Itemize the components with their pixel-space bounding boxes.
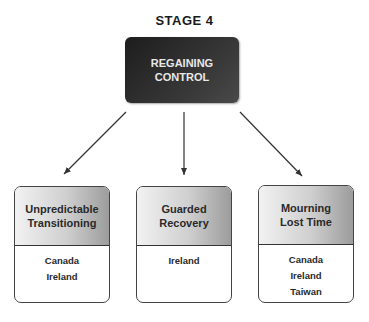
arrow-to-mourning-lost-time — [240, 112, 302, 176]
branch-card-unpredictable-transitioning: Unpredictable Transitioning Canada Irela… — [14, 186, 110, 303]
branch-country-list: Canada Ireland Taiwan — [259, 245, 353, 300]
branch-title-line: Mourning — [281, 201, 331, 215]
country-item: Ireland — [168, 253, 199, 269]
branch-card-guarded-recovery: Guarded Recovery Ireland — [136, 186, 232, 303]
branch-card-mourning-lost-time: Mourning Lost Time Canada Ireland Taiwan — [258, 185, 354, 303]
country-item: Taiwan — [290, 284, 322, 300]
branch-card-header: Unpredictable Transitioning — [15, 187, 109, 246]
country-item: Canada — [45, 253, 79, 269]
branch-card-header: Guarded Recovery — [137, 187, 231, 246]
branch-title-line: Guarded — [161, 202, 206, 216]
branch-title-line: Recovery — [159, 216, 209, 230]
branch-title-line: Transitioning — [27, 216, 96, 230]
country-item: Canada — [289, 252, 323, 268]
country-item: Ireland — [46, 269, 77, 285]
branch-country-list: Ireland — [137, 246, 231, 269]
country-item: Ireland — [290, 268, 321, 284]
branch-title-line: Unpredictable — [25, 202, 98, 216]
branch-country-list: Canada Ireland — [15, 246, 109, 285]
branch-title-line: Lost Time — [280, 215, 332, 229]
arrow-to-unpredictable-transitioning — [64, 112, 126, 174]
branch-card-header: Mourning Lost Time — [259, 186, 353, 245]
